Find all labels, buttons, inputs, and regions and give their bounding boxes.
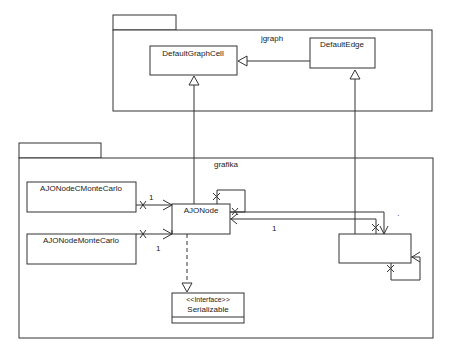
class-unnamed[interactable] [339,234,411,263]
multiplicity-label: 1 [156,244,161,253]
class-default-graph-cell[interactable]: DefaultGraphCell [150,46,237,75]
class-ajo-node-c-monte-carlo[interactable]: AJONodeCMonteCarlo [27,182,136,212]
interface-name: Serializable [187,305,229,314]
multiplicity-label: 1 [149,193,154,202]
class-name: AJONode [184,206,219,215]
class-ajo-node-monte-carlo[interactable]: AJONodeMonteCarlo [27,234,136,264]
package-tab [113,15,176,30]
class-name: DefaultEdge [320,40,365,49]
dot-marker: · [397,211,400,220]
class-ajo-node[interactable]: AJONode [172,204,230,234]
package-name: jgraph [260,34,283,43]
interface-serializable[interactable]: <<Interface>> Serializable [172,293,244,323]
package-tab [19,143,101,158]
uml-class-diagram: jgraph grafika DefaultGraphCell DefaultE… [0,0,449,352]
class-default-edge[interactable]: DefaultEdge [310,38,375,68]
class-name: AJONodeCMonteCarlo [40,184,122,193]
interface-stereotype: <<Interface>> [186,296,230,303]
package-name: grafika [214,160,239,169]
multiplicity-label: 1 [272,224,277,233]
class-name: AJONodeMonteCarlo [43,236,120,245]
class-name: DefaultGraphCell [162,49,224,58]
